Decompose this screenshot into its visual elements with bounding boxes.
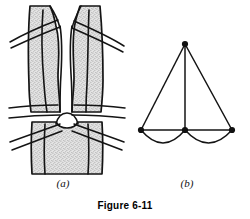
node-apex (182, 41, 188, 47)
panel-label-b: (b) (126, 178, 248, 189)
figure-container: (a) (b) Figure 6-11 (0, 0, 250, 219)
upper-fork-gap-right (70, 26, 72, 112)
edge-arc-center-right (185, 130, 232, 143)
trunk-inner-contour-left (44, 124, 45, 174)
edge-apex-left (141, 44, 185, 130)
figure-caption: Figure 6-11 (0, 200, 250, 211)
figure-panel-b (126, 28, 248, 176)
panel-a-drawing (8, 4, 126, 176)
panel-b-graph (126, 28, 248, 176)
upper-fork-gap-left (60, 26, 62, 112)
branch-line-middle-left-2 (9, 115, 60, 118)
node-right (229, 127, 235, 133)
graph-nodes (138, 41, 235, 133)
figure-panel-a (8, 4, 126, 176)
edge-arc-left-center (141, 130, 185, 143)
node-center (182, 127, 188, 133)
trunk-inner-contour-right (88, 124, 89, 174)
left-tube-band (28, 6, 60, 112)
panel-label-a: (a) (0, 178, 126, 189)
node-left (138, 127, 144, 133)
edge-apex-right (185, 44, 232, 130)
tube-bands (28, 6, 103, 174)
branch-line-middle-right-2 (72, 115, 125, 118)
